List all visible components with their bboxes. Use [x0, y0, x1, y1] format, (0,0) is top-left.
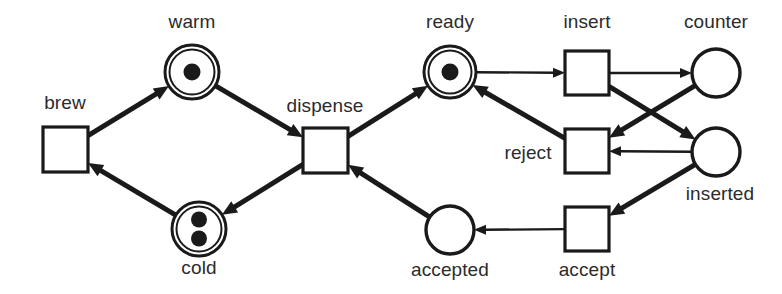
- petri-net-canvas: [0, 0, 782, 294]
- place-accepted[interactable]: [426, 206, 474, 254]
- place-label-cold: cold: [181, 258, 216, 277]
- place-label-inserted: inserted: [686, 184, 754, 203]
- place-counter[interactable]: [692, 49, 740, 97]
- transition-label-insert: insert: [563, 12, 610, 31]
- arc-inserted-to-accept: [609, 164, 695, 216]
- arrowhead: [609, 146, 621, 156]
- place-cold[interactable]: [172, 202, 226, 256]
- transition-box: [43, 127, 88, 172]
- arc-brew-to-warm: [88, 86, 169, 136]
- place-label-ready: ready: [426, 12, 474, 31]
- arc-dispense-to-cold: [222, 164, 303, 214]
- place-warm[interactable]: [165, 45, 219, 99]
- place-label-counter: counter: [684, 12, 748, 31]
- place-ready[interactable]: [424, 46, 476, 98]
- petri-net-diagram: warmcoldreadycounterinsertedacceptedbrew…: [0, 0, 782, 294]
- transition-dispense[interactable]: [303, 128, 348, 173]
- place-label-accepted: accepted: [411, 260, 489, 279]
- place-outline: [426, 206, 474, 254]
- token: [442, 64, 459, 81]
- transition-label-accept: accept: [559, 260, 616, 279]
- arc-accept-to-accepted: [474, 225, 565, 235]
- token: [184, 64, 201, 81]
- place-label-warm: warm: [169, 12, 216, 31]
- place-outline: [692, 49, 740, 97]
- transition-brew[interactable]: [43, 127, 88, 172]
- transition-accept[interactable]: [565, 207, 609, 251]
- arc-reject-to-ready: [473, 85, 565, 138]
- token: [191, 212, 207, 228]
- arc-insert-to-counter: [609, 68, 692, 78]
- arrowhead: [553, 68, 565, 78]
- transition-box: [565, 51, 609, 95]
- transition-label-dispense: dispense: [287, 96, 364, 115]
- transition-box: [565, 129, 609, 173]
- arrowhead: [474, 225, 486, 235]
- arc-cold-to-brew: [88, 163, 176, 215]
- transition-box: [565, 207, 609, 251]
- place-outline: [692, 128, 740, 176]
- transition-label-reject: reject: [504, 143, 551, 162]
- place-inserted[interactable]: [692, 128, 740, 176]
- transition-box: [303, 128, 348, 173]
- transition-reject[interactable]: [565, 129, 609, 173]
- arc-accepted-to-dispense: [348, 165, 430, 217]
- transition-insert[interactable]: [565, 51, 609, 95]
- place-outline: [172, 202, 226, 256]
- transition-label-brew: brew: [44, 93, 86, 112]
- arrowhead: [680, 68, 692, 78]
- token: [191, 231, 207, 247]
- arc-inserted-to-reject: [609, 146, 692, 156]
- arc-ready-to-insert: [476, 68, 565, 78]
